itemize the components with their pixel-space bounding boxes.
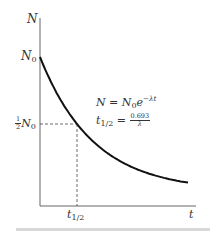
bottom-divider: [16, 228, 210, 231]
half-n-text: N: [21, 117, 31, 130]
fraction-denominator: 2: [16, 124, 20, 131]
y-axis-label: N: [27, 12, 38, 26]
half-life-subscript: 1/2: [100, 119, 113, 128]
half-n0-tick-label: 12N0: [15, 116, 36, 131]
x-axis-label: t: [189, 208, 193, 221]
n0-text: N: [21, 49, 32, 63]
half-life-denominator: λ: [138, 121, 142, 128]
equation-lhs: N = N: [96, 96, 131, 109]
n0-subscript: 0: [32, 55, 37, 64]
half-life-equation: t1/2 = 0.693λ: [96, 113, 150, 128]
t-half-tick-label: t1/2: [67, 208, 84, 222]
half-n-subscript: 0: [31, 122, 36, 131]
n0-tick-label: N0: [21, 49, 37, 64]
decay-equation: N = N0e−λt: [96, 95, 156, 110]
equation-exponent: −λt: [143, 95, 156, 103]
half-life-fraction: 0.693λ: [130, 113, 151, 128]
t-half-subscript: 1/2: [71, 213, 84, 222]
equals-sign: =: [113, 114, 129, 127]
